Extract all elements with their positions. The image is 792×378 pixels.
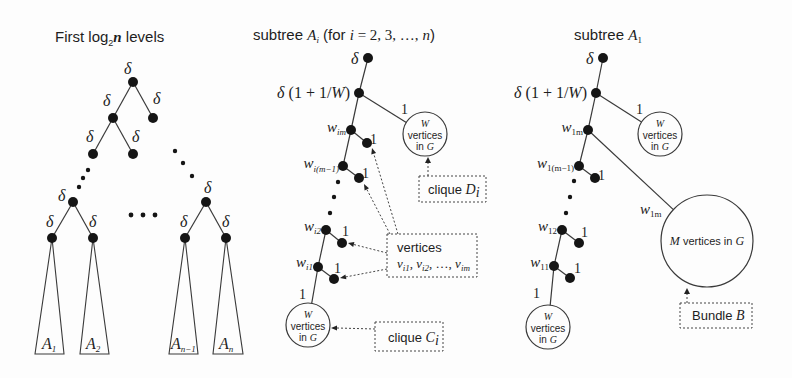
edge-weight-label: δ — [153, 90, 161, 107]
chain-label-w-12: w12 — [538, 218, 557, 236]
tree-node — [88, 233, 98, 243]
root-node — [128, 77, 138, 87]
svg-text:in G: in G — [299, 332, 317, 343]
middle-panel-subtree-ai: subtree Ai (for i = 2, 3, …, n) δ δ (1 +… — [253, 26, 486, 351]
svg-text:vertices: vertices — [408, 130, 442, 141]
edge-weight-label: 1 — [401, 102, 408, 117]
branch-weight-label: 1 — [598, 168, 605, 183]
subtree-root-node — [363, 53, 373, 63]
callout-vertices: vertices vi1, vi2, …, vim — [340, 148, 477, 279]
edge-to-clique-d — [596, 93, 642, 122]
bundle-circle: M vertices in G — [661, 195, 753, 287]
svg-text:vi1, vi2, …, vim: vi1, vi2, …, vim — [397, 256, 470, 273]
svg-text:W: W — [656, 118, 666, 129]
edge-weight-label: 1 — [636, 102, 643, 117]
svg-text:vertices: vertices — [291, 321, 325, 332]
callout-clique-c: clique Ci — [331, 322, 443, 351]
clique-c-circle: W vertices in G — [526, 305, 570, 349]
branch-weight-label: 1 — [362, 166, 369, 181]
svg-text:clique Ci: clique Ci — [388, 330, 439, 348]
tree-edge — [185, 202, 206, 238]
edge-weight-label: δ — [103, 92, 111, 109]
tree-edge — [113, 118, 133, 154]
middle-panel-title: subtree Ai (for i = 2, 3, …, n) — [253, 26, 435, 45]
tree-node — [47, 233, 57, 243]
tree-node — [128, 149, 138, 159]
chain-label-w-1-m-1: w1(m−1) — [537, 155, 574, 173]
chain-label-w-im: wim — [327, 119, 347, 137]
chain-label-w-i-m-1: wi(m−1) — [303, 155, 339, 174]
edge-weight-label: δ — [180, 213, 188, 230]
chain-edge-upper — [579, 58, 603, 166]
chain-node-w-im — [346, 125, 356, 135]
tree-node — [180, 233, 190, 243]
chain-node-w-i2 — [321, 225, 331, 235]
tree-node — [108, 113, 118, 123]
left-panel-first-levels: First log2n levels — [35, 28, 243, 354]
chain-node-w-1m — [583, 125, 593, 135]
callout-bundle-b: Bundle B — [680, 288, 752, 328]
tree-edge — [133, 82, 153, 118]
callout-clique-d: clique Di — [419, 157, 486, 202]
svg-text:vertices: vertices — [531, 323, 565, 334]
edge-weight-label: δ — [86, 128, 94, 145]
edge-to-clique-d — [359, 93, 406, 122]
svg-text:M vertices in G: M vertices in G — [669, 234, 745, 248]
svg-text:vertices: vertices — [397, 240, 442, 255]
ellipsis-dots — [564, 179, 576, 215]
arrow-head-icon — [364, 184, 369, 191]
bundle-edge-weight-label: w1m — [640, 201, 662, 219]
subtree-root-node — [598, 53, 608, 63]
chain-label-w-i2: wi2 — [304, 218, 322, 236]
tree-node — [354, 88, 364, 98]
chain-label-w-i1: wi1 — [296, 254, 313, 272]
svg-text:in G: in G — [416, 141, 434, 152]
chain-edge-upper — [343, 58, 368, 166]
ellipsis-dots — [328, 180, 340, 215]
chain-label-w-11: w11 — [530, 254, 549, 272]
tree-node — [148, 113, 158, 123]
tree-edge — [93, 118, 113, 154]
chain-node-w-i-m-1 — [338, 161, 348, 171]
svg-text:vertices: vertices — [643, 130, 677, 141]
branch-weight-label: 1 — [370, 132, 377, 147]
subtree-label-a1: A1 — [41, 335, 56, 354]
arrow-head-icon — [371, 148, 376, 154]
clique-d-circle: W vertices in G — [403, 112, 447, 156]
edge-weight-label: δ — [204, 179, 212, 196]
branch-weight-label: 1 — [581, 225, 588, 240]
root-weight-label: δ — [586, 50, 594, 67]
tree-edge — [113, 82, 133, 118]
subtree-label-a2: A2 — [85, 335, 101, 354]
edge-weight-label: δ — [124, 60, 132, 77]
svg-text:Bundle B: Bundle B — [692, 308, 745, 323]
arrow-head-icon — [425, 157, 431, 163]
svg-text:in G: in G — [539, 334, 557, 345]
tree-edge — [52, 202, 73, 238]
svg-text:W: W — [544, 311, 554, 322]
diagram-canvas: First log2n levels — [0, 0, 792, 378]
root-weight-label: δ — [351, 50, 359, 67]
edge-weight-label: δ — [222, 213, 230, 230]
tree-node — [591, 88, 601, 98]
right-panel-subtree-a1: subtree A1 δ δ (1 + 1/W) 1 w1m w1(m−1) 1… — [514, 26, 753, 349]
chain-node-w-1-m-1 — [574, 161, 584, 171]
branch-weight-label: 1 — [334, 261, 341, 276]
svg-text:in G: in G — [651, 141, 669, 152]
edge-weight-label: δ — [132, 128, 140, 145]
vertex-node — [337, 238, 347, 248]
edge-weight-label: δ — [58, 187, 66, 204]
second-weight-label: δ (1 + 1/W) — [514, 84, 587, 102]
clique-d-circle: W vertices in G — [638, 112, 682, 156]
edge-weight-label: 1 — [299, 287, 306, 302]
arrow-head-icon — [331, 326, 337, 331]
arrow-head-icon — [348, 242, 354, 247]
second-weight-label: δ (1 + 1/W) — [277, 84, 350, 102]
chain-label-w-1m: w1m — [561, 119, 583, 137]
arrow-head-icon — [684, 288, 690, 294]
right-panel-title: subtree A1 — [574, 26, 642, 45]
tree-node — [88, 149, 98, 159]
clique-c-circle: W vertices in G — [286, 303, 330, 347]
edge-weight-label: δ — [89, 213, 97, 230]
left-panel-title: First log2n levels — [55, 28, 164, 48]
